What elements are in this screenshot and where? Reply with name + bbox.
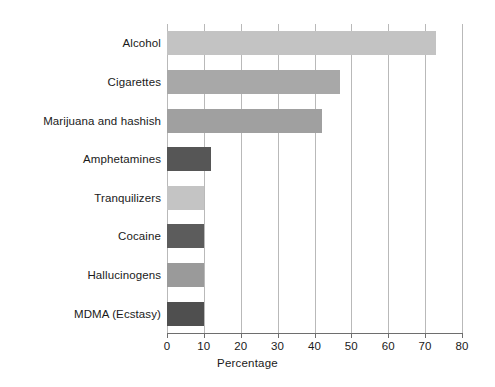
bar (167, 109, 322, 133)
x-axis-title: Percentage (0, 357, 495, 369)
x-tick-label: 10 (197, 340, 210, 352)
bar-row: MDMA (Ecstasy) (0, 302, 495, 326)
tickmark-20 (241, 333, 242, 338)
category-label: MDMA (Ecstasy) (0, 302, 161, 326)
tickmark-40 (315, 333, 316, 338)
x-tick-label: 0 (164, 340, 171, 352)
x-tick-label: 50 (345, 340, 358, 352)
bar-row: Cigarettes (0, 70, 495, 94)
tickmark-0 (167, 333, 168, 338)
bar-row: Tranquilizers (0, 186, 495, 210)
tickmark-50 (351, 333, 352, 338)
tickmark-60 (388, 333, 389, 338)
category-label: Cocaine (0, 224, 161, 248)
bar (167, 70, 340, 94)
category-label: Alcohol (0, 31, 161, 55)
bar-row: Alcohol (0, 31, 495, 55)
category-label: Marijuana and hashish (0, 109, 161, 133)
bar (167, 186, 204, 210)
bar-row: Hallucinogens (0, 263, 495, 287)
category-label: Amphetamines (0, 147, 161, 171)
tickmark-30 (278, 333, 279, 338)
bar (167, 147, 211, 171)
category-label: Hallucinogens (0, 263, 161, 287)
x-tick-label: 20 (234, 340, 247, 352)
bar (167, 31, 436, 55)
bar-row: Marijuana and hashish (0, 109, 495, 133)
bar (167, 302, 204, 326)
category-label: Tranquilizers (0, 186, 161, 210)
category-label: Cigarettes (0, 70, 161, 94)
bar (167, 224, 204, 248)
tickmark-10 (204, 333, 205, 338)
x-tick-label: 60 (382, 340, 395, 352)
bar (167, 263, 204, 287)
x-tick-label: 40 (308, 340, 321, 352)
tickmark-80 (462, 333, 463, 338)
bar-chart: 01020304050607080 AlcoholCigarettesMarij… (0, 0, 495, 387)
x-tick-label: 70 (419, 340, 432, 352)
x-tick-label: 80 (455, 340, 468, 352)
x-tick-label: 30 (271, 340, 284, 352)
bar-row: Amphetamines (0, 147, 495, 171)
tickmark-70 (425, 333, 426, 338)
bar-row: Cocaine (0, 224, 495, 248)
